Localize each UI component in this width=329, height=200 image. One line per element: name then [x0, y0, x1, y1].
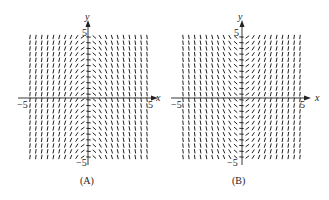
- tick-pos-x-a: 5: [148, 100, 153, 110]
- y-axis-label-a: y: [85, 12, 89, 22]
- caption-a: (A): [80, 176, 94, 186]
- slope-field-panel-a: y x 5 −5 −5 5 (A): [0, 0, 164, 200]
- y-axis-label-b: y: [238, 12, 242, 22]
- x-axis-label-a: x: [156, 93, 160, 103]
- slope-field-panel-b: y x 5 −5 −5 5 (B): [165, 0, 329, 200]
- tick-neg-y-a: −5: [76, 158, 87, 168]
- tick-pos-y-b: 5: [234, 28, 239, 38]
- tick-neg-x-a: −5: [17, 100, 28, 110]
- caption-b: (B): [232, 176, 245, 186]
- tick-pos-y-a: 5: [82, 28, 87, 38]
- tick-pos-x-b: 5: [300, 100, 305, 110]
- tick-neg-x-b: −5: [171, 100, 182, 110]
- tick-neg-y-b: −5: [227, 158, 238, 168]
- x-axis-label-b: x: [315, 93, 319, 103]
